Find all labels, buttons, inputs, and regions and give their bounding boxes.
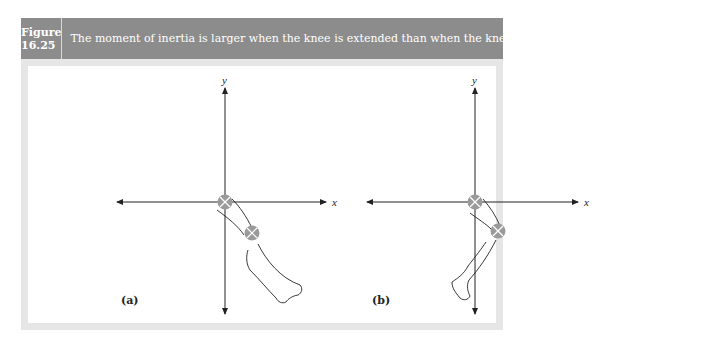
panel-a-label: (a) [121,294,139,307]
panel-a-x-label: x [331,196,337,208]
panel-a-leg-outline [217,199,302,303]
panel-b-leg-outline [452,199,500,300]
panel-a-hip-joint-icon [218,195,233,210]
panel-b-knee-joint-icon [491,224,506,239]
panel-a-y-label: y [221,74,227,86]
panel-a-diagram: y x y x [0,0,706,351]
panel-b-y-label: y [471,74,477,86]
panel-b-hip-joint-icon [468,195,483,210]
panel-a-knee-joint-icon [245,226,260,241]
panel-b-x-label: x [583,196,589,208]
panel-b-label: (b) [372,294,390,307]
